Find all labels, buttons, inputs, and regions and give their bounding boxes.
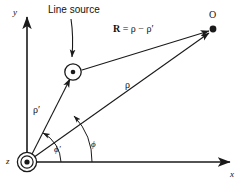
z-axis-label: z	[6, 157, 10, 166]
vector-R-equation: R = ρ − ρ′	[113, 24, 154, 34]
R-vector	[82, 31, 209, 70]
observation-point-dot	[210, 26, 217, 33]
x-axis-label: x	[230, 170, 234, 179]
observation-point-label: O	[209, 10, 216, 20]
phi-prime-label: ϕ′	[54, 145, 61, 154]
line-source-dot	[71, 70, 76, 75]
y-axis-label: y	[13, 8, 17, 17]
line-source-leader	[71, 19, 73, 57]
rho-label: ρ	[125, 80, 130, 90]
figure-canvas: y x z Line source O R = ρ − ρ′ ρ ρ′ ϕ′ ϕ	[0, 0, 248, 188]
vector-R-rhs: = ρ − ρ′	[120, 23, 153, 34]
phi-label: ϕ	[91, 140, 96, 149]
line-source-label: Line source	[48, 5, 100, 15]
rho-prime-vector	[29, 79, 70, 160]
z-axis-dot	[24, 159, 29, 164]
rho-vector	[30, 33, 209, 160]
rho-prime-label: ρ′	[33, 105, 40, 115]
